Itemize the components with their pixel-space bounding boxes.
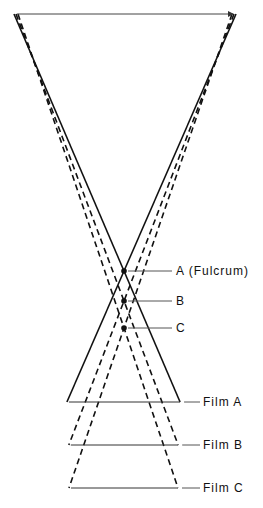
label-film-c: Film C bbox=[203, 482, 244, 494]
label-point-b: B bbox=[176, 295, 185, 307]
tomography-diagram: A (Fulcrum) B C Film A Film B Film C bbox=[0, 0, 263, 508]
point-a-dot bbox=[121, 268, 127, 274]
ray-b-right bbox=[69, 14, 234, 445]
label-film-b: Film B bbox=[203, 439, 243, 451]
ray-c-right bbox=[69, 14, 232, 488]
ray-b-left bbox=[16, 14, 178, 445]
label-point-c: C bbox=[176, 322, 186, 334]
label-point-a-fulcrum: A (Fulcrum) bbox=[176, 265, 249, 277]
ray-a-right bbox=[67, 14, 236, 402]
ray-a-left bbox=[14, 14, 180, 402]
point-c-dot bbox=[121, 325, 127, 331]
ray-geometry-drawing bbox=[0, 0, 263, 508]
ray-c-left bbox=[18, 14, 178, 488]
point-b-dot bbox=[121, 298, 127, 304]
label-film-a: Film A bbox=[203, 396, 242, 408]
